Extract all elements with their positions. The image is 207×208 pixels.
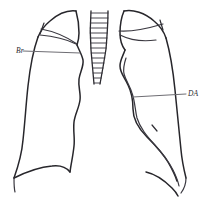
br-annotation-label: Br [16, 46, 24, 55]
da-annotation-label: DA [187, 89, 199, 98]
chest-diagram-figure: Br DA [0, 0, 207, 208]
chest-diagram-canvas: Br DA [0, 0, 207, 208]
